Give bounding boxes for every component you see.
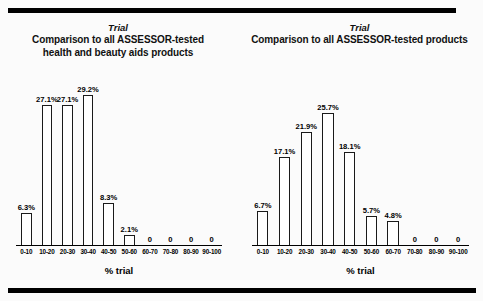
x-tick-label: 40-50 bbox=[339, 248, 361, 260]
bar-slot: 17.1% bbox=[274, 80, 296, 246]
chart-left-x-ticks: 0-10 10-20 20-30 30-40 40-50 50-60 60-70… bbox=[16, 248, 222, 260]
bar-value-label: 0 bbox=[456, 235, 460, 244]
x-tick-label: 40-50 bbox=[98, 248, 119, 260]
chart-right-x-axis-title: % trial bbox=[252, 265, 469, 276]
x-tick-label: 20-30 bbox=[295, 248, 317, 260]
bar-slot: 0 bbox=[140, 80, 161, 246]
bar-value-label: 27.1% bbox=[36, 95, 58, 104]
bar[interactable] bbox=[387, 221, 398, 246]
chart-left-subtitle-line1: Comparison to all ASSESSOR-tested bbox=[0, 34, 236, 47]
bar[interactable] bbox=[301, 132, 312, 246]
bar-slot: 0 bbox=[160, 80, 181, 246]
bar-value-label: 0 bbox=[148, 235, 152, 244]
bar-value-label: 2.1% bbox=[121, 225, 138, 234]
x-tick-label: 10-20 bbox=[37, 248, 58, 260]
x-tick-label: 50-60 bbox=[119, 248, 140, 260]
bar-slot: 8.3% bbox=[98, 80, 119, 246]
bar-slot: 18.1% bbox=[339, 80, 361, 246]
bar-slot: 5.7% bbox=[361, 80, 383, 246]
x-tick-label: 30-40 bbox=[317, 248, 339, 260]
x-tick-label: 0-10 bbox=[16, 248, 37, 260]
bar-value-label: 27.1% bbox=[57, 95, 79, 104]
chart-left-bars: 6.3% 27.1% 27.1% 29.2% bbox=[16, 80, 222, 246]
bar[interactable] bbox=[42, 105, 53, 246]
chart-right-x-ticks: 0-10 10-20 20-30 30-40 40-50 50-60 60-70… bbox=[252, 248, 469, 260]
chart-left-plot-area: 6.3% 27.1% 27.1% 29.2% bbox=[16, 80, 222, 246]
chart-right-bars: 6.7% 17.1% 21.9% 25.7% bbox=[252, 80, 469, 246]
bar[interactable] bbox=[257, 211, 268, 246]
chart-right-plot-area: 6.7% 17.1% 21.9% 25.7% bbox=[252, 80, 469, 246]
bar-value-label: 17.1% bbox=[274, 147, 296, 156]
bar-slot: 21.9% bbox=[295, 80, 317, 246]
chart-left-subtitle-line2: health and beauty aids products bbox=[0, 47, 236, 60]
bar-value-label: 25.7% bbox=[317, 103, 339, 112]
bar-slot: 2.1% bbox=[119, 80, 140, 246]
bar-slot: 4.8% bbox=[382, 80, 404, 246]
figure-page: Trial Comparison to all ASSESSOR-tested … bbox=[0, 0, 483, 301]
x-tick-label: 70-80 bbox=[160, 248, 181, 260]
x-axis-line bbox=[252, 245, 469, 246]
bar-value-label: 4.8% bbox=[384, 211, 401, 220]
bar[interactable] bbox=[62, 105, 73, 246]
x-tick-label: 20-30 bbox=[57, 248, 78, 260]
bar[interactable] bbox=[322, 113, 333, 246]
chart-right-title: Trial bbox=[236, 22, 483, 34]
bar-value-label: 6.7% bbox=[254, 201, 271, 210]
bar[interactable] bbox=[279, 157, 290, 246]
x-tick-label: 80-90 bbox=[426, 248, 448, 260]
bar-slot: 25.7% bbox=[317, 80, 339, 246]
x-tick-label: 10-20 bbox=[274, 248, 296, 260]
bar-value-label: 21.9% bbox=[295, 122, 317, 131]
bar-value-label: 0 bbox=[413, 235, 417, 244]
bar-slot: 27.1% bbox=[57, 80, 78, 246]
bar[interactable] bbox=[83, 95, 94, 246]
x-tick-label: 90-100 bbox=[447, 248, 469, 260]
x-tick-label: 90-100 bbox=[201, 248, 222, 260]
chart-left-plot: 6.3% 27.1% 27.1% 29.2% bbox=[0, 80, 236, 280]
bar-slot: 27.1% bbox=[37, 80, 58, 246]
x-tick-label: 60-70 bbox=[140, 248, 161, 260]
bar-value-label: 6.3% bbox=[18, 203, 35, 212]
bar[interactable] bbox=[344, 152, 355, 246]
bar-value-label: 18.1% bbox=[339, 142, 361, 151]
bar-value-label: 0 bbox=[434, 235, 438, 244]
x-tick-label: 80-90 bbox=[181, 248, 202, 260]
charts-container: Trial Comparison to all ASSESSOR-tested … bbox=[0, 18, 483, 280]
bar-slot: 0 bbox=[201, 80, 222, 246]
bar-value-label: 0 bbox=[189, 235, 193, 244]
bar[interactable] bbox=[103, 203, 114, 246]
bar-slot: 0 bbox=[447, 80, 469, 246]
bar-value-label: 0 bbox=[210, 235, 214, 244]
bar-value-label: 5.7% bbox=[363, 206, 380, 215]
bar[interactable] bbox=[366, 216, 377, 246]
bar-slot: 6.7% bbox=[252, 80, 274, 246]
chart-left-x-axis-title: % trial bbox=[16, 265, 222, 276]
chart-right-subtitle-line1: Comparison to all ASSESSOR-tested produc… bbox=[236, 34, 483, 47]
chart-left-title: Trial bbox=[0, 22, 236, 34]
bar-slot: 0 bbox=[426, 80, 448, 246]
x-tick-label: 70-80 bbox=[404, 248, 426, 260]
bar-slot: 0 bbox=[404, 80, 426, 246]
chart-right: Trial Comparison to all ASSESSOR-tested … bbox=[236, 18, 483, 280]
bar[interactable] bbox=[21, 213, 32, 246]
chart-left-titles: Trial Comparison to all ASSESSOR-tested … bbox=[0, 18, 236, 59]
x-axis-line bbox=[16, 245, 222, 246]
bottom-rule bbox=[8, 288, 476, 293]
bar-slot: 0 bbox=[181, 80, 202, 246]
chart-right-plot: 6.7% 17.1% 21.9% 25.7% bbox=[236, 80, 483, 280]
bar-value-label: 8.3% bbox=[100, 193, 117, 202]
top-rule bbox=[8, 8, 456, 13]
bar-value-label: 0 bbox=[168, 235, 172, 244]
bar-slot: 6.3% bbox=[16, 80, 37, 246]
x-tick-label: 50-60 bbox=[361, 248, 383, 260]
bar-slot: 29.2% bbox=[78, 80, 99, 246]
chart-right-titles: Trial Comparison to all ASSESSOR-tested … bbox=[236, 18, 483, 47]
bar-value-label: 29.2% bbox=[77, 85, 99, 94]
x-tick-label: 60-70 bbox=[382, 248, 404, 260]
chart-left: Trial Comparison to all ASSESSOR-tested … bbox=[0, 18, 236, 280]
x-tick-label: 0-10 bbox=[252, 248, 274, 260]
x-tick-label: 30-40 bbox=[78, 248, 99, 260]
